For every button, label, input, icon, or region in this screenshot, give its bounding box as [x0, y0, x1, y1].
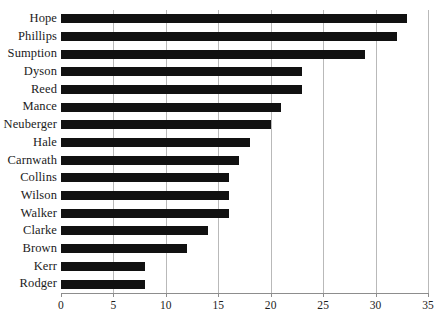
category-label: Hale	[33, 134, 57, 151]
bar	[61, 209, 229, 218]
bar	[61, 226, 208, 235]
bar-row	[0, 240, 441, 257]
bar-row	[0, 98, 441, 115]
x-axis-line	[61, 293, 429, 294]
bar-row	[0, 258, 441, 275]
tick-mark-30	[376, 293, 377, 297]
bar-row	[0, 222, 441, 239]
bar	[61, 138, 250, 147]
bar-row	[0, 205, 441, 222]
bar-row	[0, 152, 441, 169]
bar	[61, 32, 397, 41]
tick-mark-25	[323, 293, 324, 297]
bar-row	[0, 63, 441, 80]
tick-mark-10	[166, 293, 167, 297]
bar	[61, 120, 271, 129]
bar-row	[0, 275, 441, 292]
tick-mark-0	[61, 293, 62, 297]
x-tick-label-0: 0	[58, 299, 64, 311]
x-tick-label-30: 30	[370, 299, 382, 311]
tick-mark-15	[218, 293, 219, 297]
category-label: Hope	[30, 10, 57, 27]
category-label: Neuberger	[4, 116, 57, 133]
bar-row	[0, 169, 441, 186]
category-label: Sumption	[8, 45, 57, 62]
x-tick-label-5: 5	[110, 299, 116, 311]
category-label: Mance	[22, 98, 57, 115]
category-label: Phillips	[18, 28, 57, 45]
x-tick-label-20: 20	[265, 299, 277, 311]
category-label: Collins	[20, 169, 57, 186]
bar-chart: 05101520253035 HopePhillipsSumptionDyson…	[0, 0, 441, 329]
tick-mark-20	[271, 293, 272, 297]
bar	[61, 191, 229, 200]
category-label: Walker	[21, 205, 57, 222]
bar-row	[0, 45, 441, 62]
x-tick-label-10: 10	[160, 299, 172, 311]
bar-row	[0, 10, 441, 27]
category-label: Kerr	[34, 258, 57, 275]
bar	[61, 262, 145, 271]
bar	[61, 280, 145, 289]
bar	[61, 173, 229, 182]
bar-row	[0, 187, 441, 204]
bar	[61, 156, 239, 165]
category-label: Dyson	[24, 63, 57, 80]
bar	[61, 14, 407, 23]
bar-row	[0, 28, 441, 45]
category-label: Clarke	[23, 222, 57, 239]
x-tick-label-15: 15	[212, 299, 224, 311]
x-tick-label-25: 25	[317, 299, 329, 311]
bar	[61, 67, 302, 76]
category-label: Wilson	[21, 187, 57, 204]
bar	[61, 103, 281, 112]
bar	[61, 50, 365, 59]
tick-mark-5	[113, 293, 114, 297]
bar-row	[0, 134, 441, 151]
bar	[61, 85, 302, 94]
bar	[61, 244, 187, 253]
category-label: Reed	[31, 81, 57, 98]
bar-row	[0, 116, 441, 133]
category-label: Brown	[22, 240, 57, 257]
category-label: Rodger	[20, 275, 57, 292]
bar-row	[0, 81, 441, 98]
x-tick-label-35: 35	[422, 299, 434, 311]
tick-mark-35	[428, 293, 429, 297]
category-label: Carnwath	[8, 152, 57, 169]
